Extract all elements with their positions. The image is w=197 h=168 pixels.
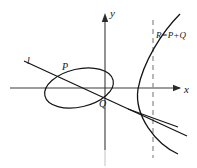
y-axis-arrowhead-icon [102, 13, 108, 22]
point-p-label: P [62, 62, 68, 72]
x-axis-arrowhead-icon [173, 85, 181, 91]
x-axis-label: x [184, 84, 189, 95]
x-axis [10, 85, 181, 91]
point-r-label: R=P+Q [156, 31, 186, 40]
point-q-label: Q [99, 99, 106, 109]
line-l-label: l [27, 56, 30, 66]
diagram-canvas [0, 0, 197, 168]
y-axis-label: y [110, 8, 115, 19]
elliptic-curve-diagram: y x l P Q R=P+Q [0, 0, 197, 168]
y-axis [102, 13, 108, 166]
